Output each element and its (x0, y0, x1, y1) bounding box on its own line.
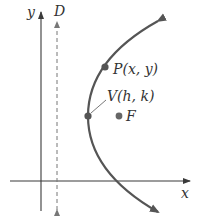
point-v (84, 112, 91, 119)
point-f-label: F (125, 108, 137, 124)
point-p-label: P(x, y) (112, 61, 158, 77)
y-axis-label: y (26, 4, 36, 20)
point-v-label: V(h, k) (107, 88, 154, 104)
parabola-curve-lower (88, 116, 158, 212)
point-p (101, 63, 108, 70)
parabola-diagram: y D x P(x, y) V(h, k) F (0, 0, 202, 220)
x-axis-label: x (181, 185, 189, 201)
vertex-leader-line (91, 100, 106, 113)
directrix-label: D (53, 3, 65, 19)
point-f (116, 113, 123, 120)
